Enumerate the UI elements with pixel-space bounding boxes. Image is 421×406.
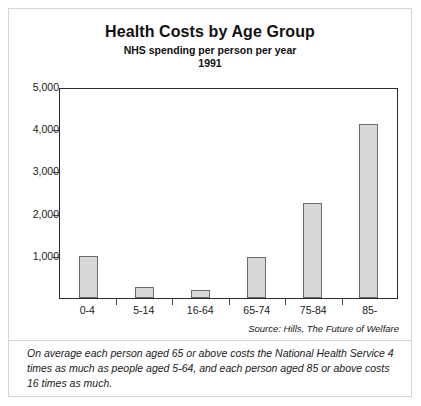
source-note: Source: Hills, The Future of Welfare <box>248 323 399 334</box>
bar-0-4[interactable] <box>79 256 98 298</box>
title-block: Health Costs by Age Group NHS spending p… <box>8 22 412 70</box>
bar-cell <box>285 89 341 298</box>
bar-65-74[interactable] <box>247 257 266 298</box>
bar-16-64[interactable] <box>191 290 210 298</box>
bar-series <box>60 89 397 298</box>
chart-year-label: 1991 <box>8 57 412 70</box>
y-axis-label: 5,000 <box>13 82 59 93</box>
bar-cell <box>172 89 228 298</box>
chart-title: Health Costs by Age Group <box>8 22 412 41</box>
bar-cell <box>60 89 116 298</box>
x-axis-tick <box>116 299 117 305</box>
bar-cell <box>341 89 397 298</box>
x-axis-label-16-64: 16-64 <box>172 304 229 317</box>
y-axis-label: 2,000 <box>13 209 59 220</box>
x-axis-label-65-74: 65-74 <box>229 304 286 317</box>
x-axis-tick <box>342 299 343 305</box>
y-axis-label: 3,000 <box>13 166 59 177</box>
bar-85-[interactable] <box>359 124 378 298</box>
bar-cell <box>116 89 172 298</box>
chart-figure: Health Costs by Age Group NHS spending p… <box>0 0 421 406</box>
y-axis-label: 1,000 <box>13 251 59 262</box>
plot-area <box>59 88 398 299</box>
x-axis-tick <box>172 299 173 305</box>
bar-75-84[interactable] <box>303 203 322 298</box>
x-axis-label-85-: 85- <box>342 304 399 317</box>
x-axis-tick <box>229 299 230 305</box>
x-axis-labels: 0-45-1416-6465-7475-8485- <box>59 304 398 317</box>
chart-annotation: On average each person aged 65 or above … <box>27 346 399 391</box>
bar-5-14[interactable] <box>135 287 154 298</box>
x-axis-label-75-84: 75-84 <box>285 304 342 317</box>
x-axis-label-5-14: 5-14 <box>116 304 173 317</box>
bar-cell <box>229 89 285 298</box>
x-axis-label-0-4: 0-4 <box>59 304 116 317</box>
x-axis-tick <box>285 299 286 305</box>
y-axis-label: 4,000 <box>13 124 59 135</box>
footnote-divider <box>9 340 411 341</box>
chart-subtitle: NHS spending per person per year <box>8 44 412 57</box>
